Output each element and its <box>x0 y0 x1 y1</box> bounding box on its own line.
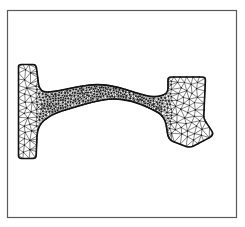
mesh-figure-canvas <box>0 0 245 227</box>
figure-root <box>0 0 245 227</box>
